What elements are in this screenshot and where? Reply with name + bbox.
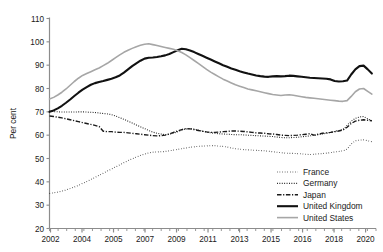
x-tick-label: 2005 [104,235,123,244]
x-tick-label: 2016 [293,235,312,244]
legend-label-germany: Germany [303,178,338,188]
chart-container: 2030405060708090100110200220042005200720… [0,0,383,252]
x-tick-label: 2013 [230,235,249,244]
x-tick-label: 2002 [41,235,60,244]
y-tick-label: 100 [30,38,44,47]
y-tick-label: 60 [35,131,45,140]
y-tick-label: 110 [31,15,44,24]
line-chart: 2030405060708090100110200220042005200720… [0,0,383,252]
x-tick-label: 2004 [73,235,92,244]
y-tick-label: 40 [35,178,45,187]
x-tick-label: 2018 [325,235,344,244]
y-tick-label: 50 [35,155,45,164]
x-tick-label: 2009 [167,235,186,244]
y-tick-label: 30 [35,201,45,210]
x-tick-label: 2020 [356,235,375,244]
legend-label-japan: Japan [303,190,326,200]
y-tick-label: 20 [35,225,45,234]
legend-label-france: France [303,167,329,177]
y-tick-label: 90 [35,61,45,70]
series-line-united-states [50,44,372,102]
legend-layer: FranceGermanyJapanUnited KingdomUnited S… [277,167,363,223]
legend-label-united-states: United States [303,213,353,223]
legend-label-united-kingdom: United Kingdom [303,201,363,211]
x-tick-label: 2015 [262,235,281,244]
series-line-united-kingdom [50,49,372,112]
x-tick-label: 2007 [136,235,155,244]
series-line-japan [50,116,372,136]
y-axis-title: Per cent [8,107,18,139]
y-tick-label: 70 [35,108,45,117]
x-tick-label: 2011 [199,235,217,244]
y-tick-label: 80 [35,85,45,94]
